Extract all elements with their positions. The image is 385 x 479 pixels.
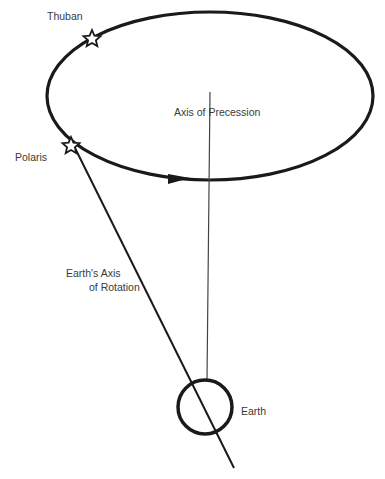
axis-of-precession-label: Axis of Precession <box>174 106 260 118</box>
thuban-star-icon <box>84 30 101 46</box>
earth-axis-label-line1: Earth's Axis <box>66 267 121 279</box>
thuban-label: Thuban <box>47 10 83 22</box>
precession-diagram <box>0 0 385 479</box>
axis-of-precession-line <box>207 92 210 380</box>
earth-axis-label-line2: of Rotation <box>89 281 140 293</box>
earth-circle <box>178 380 232 434</box>
polaris-label: Polaris <box>15 151 47 163</box>
earth-axis-of-rotation-line <box>74 146 234 468</box>
earth-label: Earth <box>241 405 266 417</box>
